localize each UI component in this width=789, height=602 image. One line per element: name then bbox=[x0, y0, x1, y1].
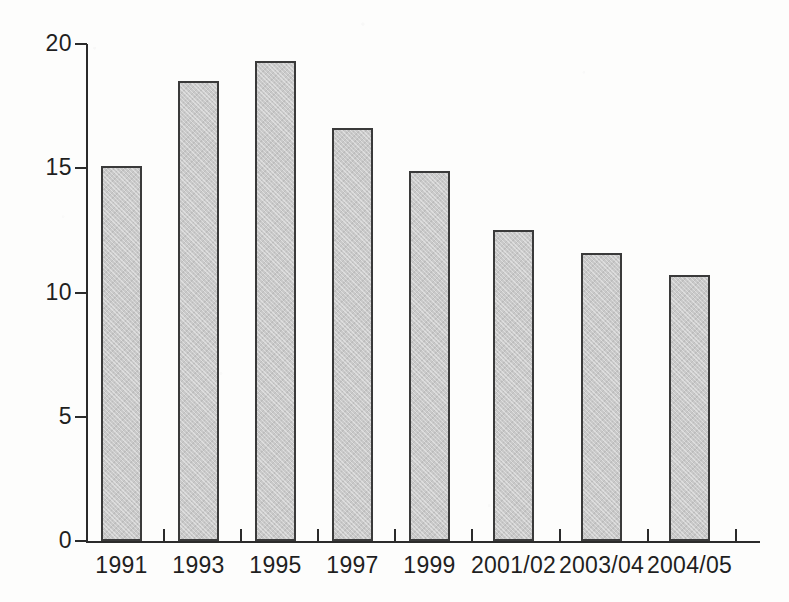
y-tick-label-15-wrap: 15 bbox=[0, 156, 72, 179]
y-tick-mark-10 bbox=[75, 292, 87, 294]
bar-1995 bbox=[255, 61, 296, 541]
bar-2004-05 bbox=[669, 275, 710, 541]
y-tick-mark-15 bbox=[75, 167, 87, 169]
plot-area: 20 15 10 5 0 bbox=[0, 0, 789, 602]
bar-1997 bbox=[332, 128, 373, 541]
x-tick-mark-5 bbox=[471, 529, 473, 542]
x-axis-label-2004-05: 2004/05 bbox=[642, 552, 737, 578]
x-tick-mark-8 bbox=[735, 529, 737, 542]
x-tick-mark-0 bbox=[86, 529, 88, 542]
x-axis-label-1997: 1997 bbox=[312, 552, 393, 578]
y-tick-label-20: 20 bbox=[4, 32, 72, 55]
y-tick-label-5-wrap: 5 bbox=[0, 405, 72, 428]
y-tick-label-15: 15 bbox=[4, 156, 72, 179]
x-tick-mark-1 bbox=[163, 529, 165, 542]
x-axis-label-1991: 1991 bbox=[81, 552, 162, 578]
y-tick-label-10-wrap: 10 bbox=[0, 281, 72, 304]
x-axis-label-1999: 1999 bbox=[389, 552, 470, 578]
bar-2001-02 bbox=[493, 230, 534, 541]
x-tick-mark-7 bbox=[647, 529, 649, 542]
y-tick-label-0-wrap: 0 bbox=[0, 529, 72, 552]
y-tick-label-20-wrap: 20 bbox=[0, 32, 72, 55]
bar-1993 bbox=[178, 81, 219, 541]
x-tick-mark-6 bbox=[559, 529, 561, 542]
bar-chart-figure: 20 15 10 5 0 bbox=[0, 0, 789, 602]
bar-2003-04 bbox=[581, 253, 622, 541]
x-axis-label-1993: 1993 bbox=[158, 552, 239, 578]
y-tick-label-0: 0 bbox=[4, 529, 72, 552]
x-tick-mark-4 bbox=[394, 529, 396, 542]
x-axis-label-1995: 1995 bbox=[235, 552, 316, 578]
x-axis-label-2003-04: 2003/04 bbox=[554, 552, 649, 578]
x-axis-line bbox=[86, 541, 760, 543]
x-tick-mark-3 bbox=[317, 529, 319, 542]
bar-1991 bbox=[101, 166, 142, 541]
x-axis-label-2001-02: 2001/02 bbox=[466, 552, 561, 578]
bar-1999 bbox=[409, 171, 450, 541]
y-tick-mark-20 bbox=[75, 43, 87, 45]
y-tick-label-10: 10 bbox=[4, 281, 72, 304]
y-tick-mark-5 bbox=[75, 416, 87, 418]
x-tick-mark-2 bbox=[240, 529, 242, 542]
y-tick-label-5: 5 bbox=[4, 405, 72, 428]
